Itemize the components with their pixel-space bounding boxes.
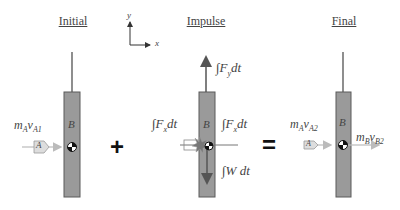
x-axis-label: x [155,38,159,48]
plus-operator: + [110,133,124,161]
final-body-label: B [339,116,346,128]
weight-impulse-label: ∫W dt [222,163,250,179]
center-of-mass-icon [339,141,348,150]
final-particle-label: A [306,139,311,148]
center-of-mass-icon [68,143,77,152]
y-axis-label: y [127,10,131,20]
fx-left-impulse-label: ∫Fxdt [152,116,177,134]
diagram-canvas [0,0,400,210]
initial-particle-label: A [36,140,42,150]
fy-impulse-label: ∫Fydt [216,60,241,78]
initial-body-label: B [68,118,75,130]
fx-right-impulse-label: ∫Fxdt [222,116,247,134]
coordinate-axes [130,22,150,45]
center-of-mass-icon [205,142,213,150]
impulse-body-label: B [203,118,210,130]
final-momentum-b: mBvB2 [356,130,384,146]
equals-operator: = [262,131,276,159]
initial-momentum-a: mAvA1 [14,118,42,134]
final-momentum-a: mAvA2 [290,117,318,133]
